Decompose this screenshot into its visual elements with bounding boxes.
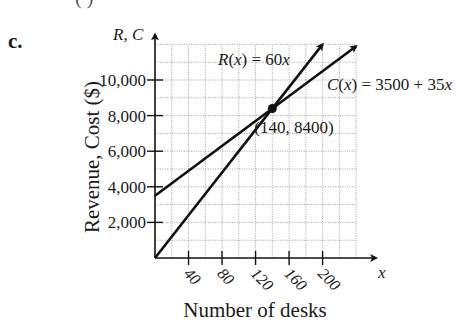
intersection-point <box>268 104 277 113</box>
x-tick-label: 200 <box>315 265 344 294</box>
x-tick-label: 160 <box>281 265 310 294</box>
revenue-label: R(x) = 60x <box>217 50 290 69</box>
y-tick-label: 2,000 <box>108 213 146 232</box>
y-tick-label: 4,000 <box>108 178 146 197</box>
x-axis-var: x <box>377 263 386 282</box>
x-tick-label: 120 <box>248 265 277 294</box>
x-axis-title: Number of desks <box>183 298 326 323</box>
y-axis-var: R, C <box>112 25 144 44</box>
x-tick-label: 40 <box>181 265 204 288</box>
chart: 2,0004,0006,0008,00010,0004080120160200R… <box>0 0 470 327</box>
y-axis-title: Revenue, Cost ($) <box>80 81 105 233</box>
intersection-label: (140, 8400) <box>254 118 333 137</box>
x-tick-label: 80 <box>214 265 237 288</box>
y-tick-label: 10,000 <box>99 71 146 90</box>
y-tick-label: 6,000 <box>108 142 146 161</box>
grid <box>155 44 356 258</box>
y-tick-label: 8,000 <box>108 107 146 126</box>
cost-label: C(x) = 3500 + 35x <box>327 75 452 94</box>
